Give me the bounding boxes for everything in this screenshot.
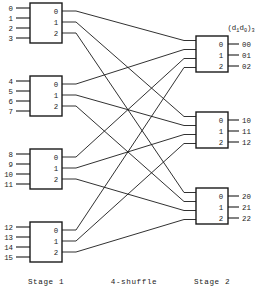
stage1-input-label: 6 bbox=[9, 98, 13, 106]
stage1-caption: Stage 1 bbox=[28, 278, 64, 286]
shuffle-wire bbox=[62, 33, 196, 193]
stage1-input-label: 8 bbox=[9, 151, 13, 159]
stage2-output-label: 21 bbox=[242, 204, 251, 212]
stage1-input-label: 9 bbox=[9, 161, 13, 169]
stage2-port-label: 2 bbox=[219, 63, 223, 71]
stage1-input-label: 15 bbox=[4, 254, 13, 262]
stage1-input-label: 3 bbox=[9, 35, 13, 43]
stage1-input-label: 0 bbox=[9, 5, 13, 13]
stage2-port-label: 2 bbox=[219, 215, 223, 223]
header-label-d1d0: (d1d0)3 bbox=[227, 24, 254, 34]
stage1-output-port-label: 0 bbox=[54, 8, 58, 16]
stage1-input-label: 7 bbox=[9, 108, 13, 116]
stage1-output-port-label: 0 bbox=[54, 227, 58, 235]
stage2-port-label: 2 bbox=[219, 139, 223, 147]
stage1-output-port-label: 2 bbox=[54, 249, 58, 257]
stage2-output-label: 02 bbox=[242, 63, 251, 71]
shuffle-wire bbox=[62, 50, 196, 85]
switch-boxes bbox=[30, 3, 228, 262]
shuffle-wire bbox=[62, 11, 196, 41]
stage2-port-label: 0 bbox=[219, 117, 223, 125]
shuffle-wire bbox=[62, 68, 196, 231]
stage2-output-label: 22 bbox=[242, 215, 251, 223]
stage1-output-port-label: 0 bbox=[54, 81, 58, 89]
stage1-input-label: 10 bbox=[4, 171, 13, 179]
stage2-port-label: 1 bbox=[219, 128, 224, 136]
stage1-input-label: 11 bbox=[4, 181, 13, 189]
diagram-canvas: 0123012456701289101101212131415012012000… bbox=[0, 0, 271, 294]
shuffle-wire bbox=[62, 106, 196, 202]
stage1-output-port-label: 2 bbox=[54, 30, 58, 38]
stage1-output-port-label: 1 bbox=[54, 165, 59, 173]
stage2-port-label: 1 bbox=[219, 52, 224, 60]
stage1-input-label: 14 bbox=[4, 244, 13, 252]
stage1-output-port-label: 1 bbox=[54, 238, 59, 246]
stage1-output-port-label: 1 bbox=[54, 19, 59, 27]
shuffle-caption: 4-shuffle bbox=[111, 278, 157, 286]
stage1-input-label: 12 bbox=[4, 224, 13, 232]
shuffle-wire bbox=[62, 59, 196, 158]
stage2-caption: Stage 2 bbox=[194, 278, 230, 286]
stage1-output-port-label: 1 bbox=[54, 92, 59, 100]
stage2-output-label: 00 bbox=[242, 41, 251, 49]
stage2-output-label: 01 bbox=[242, 52, 251, 60]
stage1-input-label: 2 bbox=[9, 25, 13, 33]
stage1-input-label: 5 bbox=[9, 88, 13, 96]
stage1-output-port-label: 2 bbox=[54, 176, 58, 184]
stage1-input-label: 13 bbox=[4, 234, 13, 242]
shuffle-wire bbox=[62, 22, 196, 117]
stage2-port-label: 1 bbox=[219, 204, 224, 212]
stage2-port-label: 0 bbox=[219, 41, 223, 49]
stage2-output-label: 11 bbox=[242, 128, 251, 136]
stage1-input-label: 1 bbox=[9, 15, 14, 23]
stage2-output-label: 20 bbox=[242, 193, 251, 201]
stage2-output-label: 10 bbox=[242, 117, 251, 125]
stage1-input-label: 4 bbox=[9, 78, 14, 86]
stage1-output-port-label: 0 bbox=[54, 154, 58, 162]
stage1-output-port-label: 2 bbox=[54, 103, 58, 111]
shuffle-network-diagram: 0123012456701289101101212131415012012000… bbox=[0, 0, 271, 294]
stage2-output-label: 12 bbox=[242, 139, 251, 147]
shuffle-wire bbox=[62, 95, 196, 126]
shuffle-wire bbox=[62, 144, 196, 242]
stage2-port-label: 0 bbox=[219, 193, 223, 201]
